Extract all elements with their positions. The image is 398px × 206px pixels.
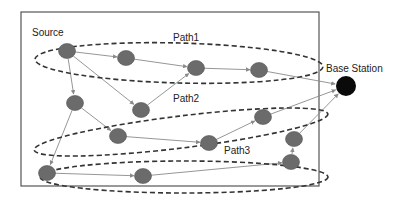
edge-arrow	[267, 71, 335, 84]
source-node	[59, 44, 76, 59]
sensor-node	[255, 110, 272, 125]
source-label: Source	[32, 27, 64, 38]
edge-arrow	[68, 59, 73, 94]
sensor-node	[201, 136, 218, 151]
edge-arrow	[126, 137, 200, 143]
path1-ellipse	[35, 39, 324, 87]
base-station-node	[336, 76, 356, 96]
sensor-node	[39, 166, 56, 181]
edge-arrow	[270, 90, 335, 114]
sensor-node	[251, 63, 268, 78]
path2-label: Path2	[173, 93, 199, 104]
edge-arrow	[151, 163, 282, 175]
edge-arrow	[216, 121, 255, 140]
sensor-node	[188, 61, 205, 76]
edge-arrow	[204, 68, 250, 69]
path3-label: Path3	[224, 145, 250, 156]
edge-arrow	[292, 148, 293, 154]
edge-arrow	[134, 59, 187, 67]
path1-label: Path1	[173, 32, 199, 43]
edge-arrow	[55, 173, 134, 175]
base-station-label: Base Station	[326, 63, 383, 74]
nodes-layer	[39, 44, 357, 184]
edge-arrow	[75, 52, 117, 57]
path-ellipses-layer	[32, 39, 330, 193]
sensor-node	[286, 132, 303, 147]
sensor-node	[118, 51, 135, 66]
sensor-node	[133, 103, 150, 118]
sensor-node	[110, 129, 127, 144]
network-area-frame	[21, 12, 319, 186]
sensor-node	[67, 96, 84, 111]
sensor-node	[135, 169, 152, 184]
sensor-node	[283, 155, 300, 170]
